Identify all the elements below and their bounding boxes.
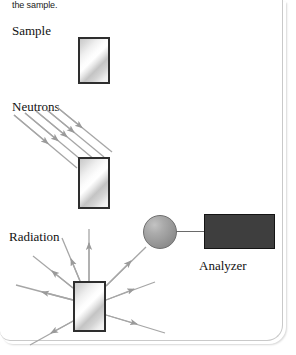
detector-sphere [143,215,177,249]
sample-slab-irradiated [78,157,110,209]
label-analyzer: Analyzer [199,258,247,274]
label-sample: Sample [12,23,51,39]
label-radiation: Radiation [9,229,60,245]
label-neutrons: Neutrons [12,99,60,115]
caption-top-text: the sample. [12,0,57,10]
sample-slab-top [78,37,110,84]
page-card [0,0,283,341]
analyzer-box [204,214,275,249]
figure-page: the sample. Sample Neutrons Radiation An… [0,0,296,355]
detector-analyzer-wire [176,231,205,232]
sample-slab-emitting [73,281,106,332]
